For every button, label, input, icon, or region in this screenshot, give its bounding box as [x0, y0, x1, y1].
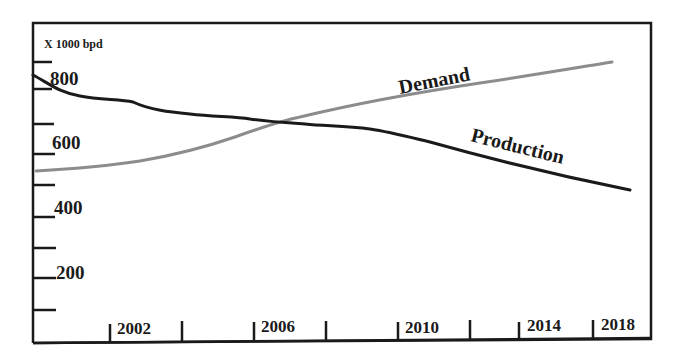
y-axis-ticks: [33, 62, 56, 310]
y-tick-label-400: 400: [54, 197, 83, 218]
production-line: [33, 75, 630, 190]
x-tick-label-2002: 2002: [117, 319, 151, 338]
x-tick-label-2006: 2006: [261, 317, 295, 336]
unit-label: X 1000 bpd: [44, 37, 103, 51]
x-tick-label-2010: 2010: [405, 318, 439, 337]
demand-label: Demand: [397, 63, 472, 98]
x-tick-label-2014: 2014: [527, 316, 562, 335]
production-label: Production: [469, 124, 567, 168]
x-tick-label-2018: 2018: [601, 315, 635, 334]
y-tick-label-200: 200: [56, 262, 85, 283]
oil-production-demand-chart: X 1000 bpd 800 600 400 200 2002 2006 201…: [0, 0, 683, 363]
y-tick-label-600: 600: [52, 132, 81, 153]
